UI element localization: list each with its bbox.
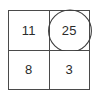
- grid-cell-bottom-right[interactable]: 3: [50, 51, 91, 91]
- cell-value-bottom-right: 3: [66, 63, 73, 76]
- grid-cell-top-left[interactable]: 11: [9, 11, 50, 51]
- number-grid: 11 25 8 3: [8, 10, 90, 90]
- grid-cell-bottom-left[interactable]: 8: [9, 51, 50, 91]
- grid-cell-top-right[interactable]: 25: [50, 11, 91, 51]
- cell-value-top-right: 25: [62, 24, 77, 37]
- cell-value-top-left: 11: [22, 24, 36, 37]
- number-grid-figure: 11 25 8 3: [0, 0, 98, 97]
- cell-value-bottom-left: 8: [25, 63, 32, 76]
